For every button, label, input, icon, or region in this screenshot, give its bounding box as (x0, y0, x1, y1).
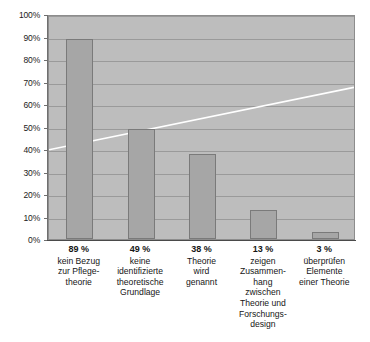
category-label-line: einer Theorie (294, 277, 355, 288)
bar-value-label: 38 % (171, 244, 232, 255)
category-label: 89 %kein Bezugzur Pflege-theorie (48, 244, 109, 287)
y-axis-tick-label: 50% (24, 123, 40, 133)
category-label-line: zur Pflege- (48, 266, 109, 277)
category-label-line: überprüfen (294, 256, 355, 267)
bar (189, 154, 216, 240)
y-axis-tick-label: 70% (24, 78, 40, 88)
y-axis-tick-label: 30% (24, 168, 40, 178)
y-axis-tick-label: 60% (24, 100, 40, 110)
category-label-line: keine (109, 256, 170, 267)
category-label-line: kein Bezug (48, 256, 109, 267)
category-label-line: Grundlage (109, 287, 170, 298)
x-axis-line (47, 240, 356, 241)
y-axis-tick-label: 0% (28, 235, 40, 245)
category-labels: 89 %kein Bezugzur Pflege-theorie49 %kein… (48, 244, 355, 342)
category-label-line: zwischen (232, 287, 293, 298)
y-axis-line (47, 15, 48, 241)
bar (66, 39, 93, 239)
y-axis-tick-label: 100% (19, 10, 40, 20)
category-label-line: Theorie und (232, 298, 293, 309)
category-label-line: wird (171, 266, 232, 277)
category-label-line: Zusammen- (232, 266, 293, 277)
plot-area (48, 15, 355, 240)
category-label-line: zeigen (232, 256, 293, 267)
category-label-line: Forschungs- (232, 309, 293, 320)
category-label-line: Elemente (294, 266, 355, 277)
category-label-line: design (232, 319, 293, 330)
bar-value-label: 3 % (294, 244, 355, 255)
bar-chart-figure: 0%10%20%30%40%50%60%70%80%90%100% 89 %ke… (0, 0, 370, 342)
y-axis-tick-label: 20% (24, 190, 40, 200)
category-label-line: genannt (171, 277, 232, 288)
bar (312, 232, 339, 239)
y-axis-tick-label: 90% (24, 33, 40, 43)
y-axis-tick-label: 80% (24, 55, 40, 65)
category-label-line: theorie (48, 277, 109, 288)
category-label: 38 %Theoriewirdgenannt (171, 244, 232, 287)
bar-value-label: 13 % (232, 244, 293, 255)
y-axis: 0%10%20%30%40%50%60%70%80%90%100% (0, 15, 48, 240)
category-label: 49 %keineidentifiziertetheoretischeGrund… (109, 244, 170, 298)
category-label-line: Theorie (171, 256, 232, 267)
bar-value-label: 89 % (48, 244, 109, 255)
category-label-line: hang (232, 277, 293, 288)
category-label-line: theoretische (109, 277, 170, 288)
category-label-line: identifizierte (109, 266, 170, 277)
bar-value-label: 49 % (109, 244, 170, 255)
y-axis-tick-label: 40% (24, 145, 40, 155)
bar (250, 210, 277, 239)
category-label: 13 %zeigenZusammen-hangzwischenTheorie u… (232, 244, 293, 330)
y-axis-tick-label: 10% (24, 213, 40, 223)
bar (128, 129, 155, 239)
category-label: 3 %überprüfenElementeeiner Theorie (294, 244, 355, 287)
